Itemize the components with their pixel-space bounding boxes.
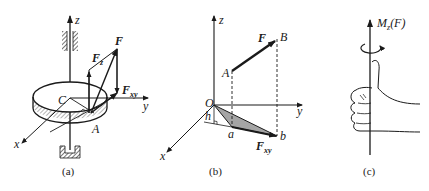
force-Fxy-label: Fxy xyxy=(255,139,272,155)
distance-label-h: h xyxy=(205,109,211,123)
point-label-A: A xyxy=(91,122,100,136)
point-label-b: b xyxy=(280,129,286,143)
origin-label-O: O xyxy=(205,96,214,110)
upper-bearing-right xyxy=(73,31,78,51)
upper-bearing-left xyxy=(62,31,67,51)
force-Fz-label: Fz xyxy=(91,51,104,67)
panel-c: Mz(F) (c) xyxy=(351,16,420,178)
force-Fxy-label: Fxy xyxy=(121,83,138,99)
y-axis-label: y xyxy=(296,104,303,118)
moment-label: Mz(F) xyxy=(376,16,405,32)
caption-a: (a) xyxy=(62,165,75,178)
x-axis-label: x xyxy=(13,137,20,151)
y-axis-label: y xyxy=(142,99,149,113)
point-label-A: A xyxy=(221,66,230,80)
panel-a: z C y x A F Fz Fxy (a) xyxy=(13,13,149,178)
disc-top xyxy=(33,82,107,112)
figure-canvas: z C y x A F Fz Fxy (a) xyxy=(0,0,429,191)
z-axis-label: z xyxy=(218,13,224,27)
rotation-arrow-icon xyxy=(361,44,381,53)
force-F-vector xyxy=(232,41,275,71)
x-axis-label: x xyxy=(159,149,166,163)
point-label-B: B xyxy=(280,30,288,44)
point-label-a: a xyxy=(228,127,234,141)
z-axis-label: z xyxy=(74,13,80,27)
force-F-label: F xyxy=(114,34,123,48)
projected-triangle-Oab xyxy=(214,105,277,136)
force-F-label: F xyxy=(257,31,266,45)
panel-b: z y x O A B F h a b Fxy (b) xyxy=(159,13,303,178)
caption-c: (c) xyxy=(363,165,376,178)
caption-b: (b) xyxy=(209,165,222,178)
